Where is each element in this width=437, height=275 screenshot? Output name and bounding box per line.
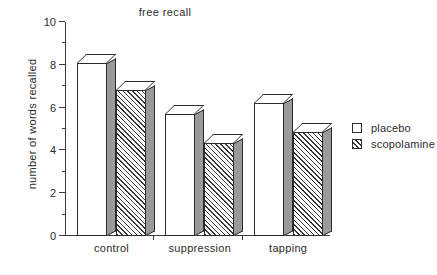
legend-item-scopolamine: scopolamine	[352, 136, 435, 152]
bar-side-face	[146, 86, 155, 236]
bar-front-face	[204, 143, 234, 236]
y-tick-major	[59, 192, 65, 193]
y-tick-label: 4	[50, 144, 56, 156]
bar-side-face	[323, 127, 332, 236]
y-tick-label: 6	[50, 102, 56, 114]
bar-side-face	[195, 109, 204, 236]
x-category-label-tapping: tapping	[228, 242, 348, 254]
x-tick	[242, 236, 243, 240]
bar-control-scopolamine	[116, 90, 146, 236]
legend-label-scopolamine: scopolamine	[371, 138, 435, 150]
bar-front-face	[165, 114, 195, 236]
bar-front-face	[116, 90, 146, 236]
y-tick-minor	[62, 85, 65, 86]
legend: placebo scopolamine	[352, 120, 435, 152]
y-tick-minor	[62, 42, 65, 43]
y-axis-title: number of words recalled	[26, 39, 38, 209]
y-tick-label: 0	[50, 230, 56, 242]
y-axis-line	[65, 22, 66, 236]
bar-side-face	[234, 138, 243, 236]
plot-area: 0246810	[65, 22, 330, 236]
y-tick-major	[59, 107, 65, 108]
bar-suppression-placebo	[165, 114, 195, 236]
y-tick-minor	[62, 214, 65, 215]
free-recall-bar-chart: free recall number of words recalled 024…	[0, 0, 437, 275]
y-tick-major	[59, 235, 65, 236]
bar-front-face	[254, 103, 284, 236]
y-tick-label: 2	[50, 187, 56, 199]
bar-side-face	[107, 58, 116, 236]
y-tick-minor	[62, 171, 65, 172]
y-tick-label: 8	[50, 59, 56, 71]
y-tick-major	[59, 149, 65, 150]
bar-tapping-scopolamine	[293, 132, 323, 236]
y-tick-major	[59, 21, 65, 22]
bar-front-face	[77, 63, 107, 236]
bar-control-placebo	[77, 63, 107, 236]
bar-suppression-scopolamine	[204, 143, 234, 236]
bar-side-face	[284, 99, 293, 236]
bar-tapping-placebo	[254, 103, 284, 236]
legend-swatch-scopolamine	[352, 139, 362, 149]
legend-label-placebo: placebo	[371, 122, 411, 134]
legend-swatch-placebo	[352, 123, 362, 133]
y-tick-major	[59, 64, 65, 65]
x-tick	[153, 236, 154, 240]
bar-front-face	[293, 132, 323, 236]
y-tick-minor	[62, 128, 65, 129]
legend-item-placebo: placebo	[352, 120, 435, 136]
y-tick-label: 10	[44, 16, 56, 28]
